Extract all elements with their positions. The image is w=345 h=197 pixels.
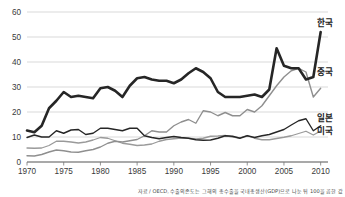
series-label-2: 중국: [317, 67, 333, 77]
series-line-1: [27, 32, 321, 132]
series-label-3: 일본: [317, 112, 333, 123]
y-axis-tick-label: 0: [16, 158, 21, 167]
y-axis-tick-label: 50: [12, 33, 22, 42]
x-axis-tick-label: 1975: [55, 167, 74, 176]
y-axis-tick-label: 60: [12, 8, 22, 17]
series-line-4: [27, 131, 321, 148]
y-axis-tick-label: 10: [12, 133, 22, 142]
chart-footnote: 자료 / OECD, 수출의존도는 그해의 총수출을 국내총생산(GDP)으로 …: [0, 188, 345, 195]
chart-container: 0102030405060197019751980198519901995200…: [0, 0, 345, 197]
series-label-1: 한국: [317, 17, 333, 28]
x-axis-tick-label: 1995: [201, 167, 220, 176]
x-axis-tick-label: 2005: [275, 167, 294, 176]
x-axis-tick-label: 1985: [128, 167, 147, 176]
y-axis-tick-label: 40: [12, 58, 22, 67]
line-chart: 0102030405060197019751980198519901995200…: [0, 0, 345, 197]
x-axis-tick-label: 2010: [312, 167, 331, 176]
x-axis-tick-label: 2000: [238, 167, 257, 176]
x-axis-tick-label: 1980: [91, 167, 110, 176]
y-axis-tick-label: 20: [12, 108, 22, 117]
x-axis-tick-label: 1970: [18, 167, 37, 176]
series-label-4: 미국: [317, 125, 333, 136]
x-axis-tick-label: 1990: [165, 167, 184, 176]
y-axis-tick-label: 30: [12, 83, 22, 92]
